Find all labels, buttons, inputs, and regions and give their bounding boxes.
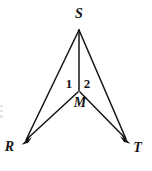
- angle-label-1: 1: [62, 77, 76, 90]
- vertex-label-t: T: [130, 141, 145, 155]
- geometry-figure: S M R T 1 2: [0, 0, 152, 171]
- angle-label-2: 2: [80, 77, 94, 90]
- cropped-edge-artifact: [0, 105, 3, 118]
- vertex-label-m: M: [72, 96, 88, 110]
- vertex-label-r: R: [2, 140, 17, 154]
- vertex-label-s: S: [71, 7, 87, 21]
- segment-MR: [22, 92, 78, 144]
